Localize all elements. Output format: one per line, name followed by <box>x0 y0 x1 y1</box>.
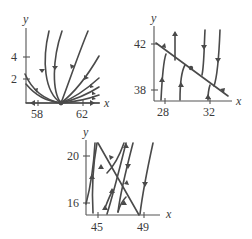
panel-2-x-tick-28: 28 <box>157 105 169 119</box>
panel-1-trajectories <box>25 31 99 106</box>
panel-3-x-label: x <box>165 207 172 221</box>
panel-2-trajectories <box>156 30 228 100</box>
panel-1-y-tick-4: 4 <box>11 50 17 64</box>
panel-2-equilibrium-point <box>189 66 193 70</box>
panel-3-y-tick-20: 20 <box>67 149 79 163</box>
panel-1-y-label: y <box>22 12 29 26</box>
panel-3-y-tick-16: 16 <box>67 196 79 210</box>
panel-2-x-tick-32: 32 <box>203 105 215 119</box>
panel-3: y x 20 16 45 49 <box>67 125 172 234</box>
panel-1-x-tick-62: 62 <box>76 107 88 121</box>
panel-1-x-tick-58: 58 <box>31 107 43 121</box>
panel-2-y-tick-38: 38 <box>134 83 146 97</box>
panel-3-x-tick-49: 49 <box>137 220 149 234</box>
panel-1: y x 4 2 58 62 <box>11 12 110 121</box>
panel-1-y-tick-2: 2 <box>11 72 17 86</box>
panel-1-equilibrium-point <box>59 101 64 106</box>
panel-3-trajectories <box>86 143 153 215</box>
panel-2-x-label: x <box>235 94 242 108</box>
panel-2-y-tick-42: 42 <box>134 37 146 51</box>
phase-portrait-figure: y x 4 2 58 62 <box>0 0 252 239</box>
panel-3-x-tick-45: 45 <box>91 220 103 234</box>
panel-3-y-label: y <box>82 125 89 139</box>
panel-1-x-label: x <box>103 96 110 110</box>
panel-2-y-label: y <box>150 11 157 25</box>
panel-2: y x 42 38 28 32 <box>134 11 242 119</box>
